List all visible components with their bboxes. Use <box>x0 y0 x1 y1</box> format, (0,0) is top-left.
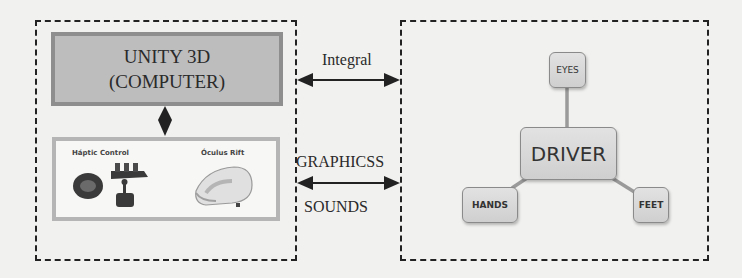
eyes-label: EYES <box>556 65 579 75</box>
diagram-connectors <box>0 0 742 278</box>
hands-label: HANDS <box>472 200 508 210</box>
hands-node: HANDS <box>462 187 518 223</box>
feet-label: FEET <box>639 200 664 210</box>
integral-label: Integral <box>322 51 372 69</box>
driver-label: DRIVER <box>531 142 606 166</box>
feet-node: FEET <box>633 187 669 223</box>
sounds-label: SOUNDS <box>304 198 368 216</box>
driver-node: DRIVER <box>520 127 617 180</box>
graphics-label: GRAPHICSS <box>296 153 384 171</box>
eyes-node: EYES <box>549 52 586 88</box>
bidirectional-connector-icon <box>158 106 172 136</box>
